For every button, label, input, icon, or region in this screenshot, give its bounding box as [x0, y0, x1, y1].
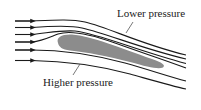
leader-line-higher — [73, 64, 80, 75]
higher-pressure-label: Higher pressure — [43, 77, 113, 88]
lower-pressure-label: Lower pressure — [117, 8, 185, 19]
airfoil-pressure-diagram: Lower pressure Higher pressure — [0, 0, 201, 110]
leader-line-lower — [126, 22, 133, 33]
flow-arrows — [15, 21, 33, 61]
